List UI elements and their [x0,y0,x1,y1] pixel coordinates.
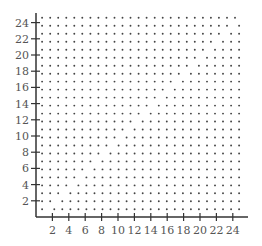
data-point [194,41,196,43]
data-point [138,73,140,75]
data-point [206,81,208,83]
data-point [158,145,160,147]
data-point [134,184,136,186]
y-tick-label: 18 [15,65,29,78]
data-point [238,168,240,170]
data-point [178,41,180,43]
data-point [122,49,124,51]
data-point [41,33,43,35]
data-point [238,49,240,51]
data-point [49,153,51,155]
data-point [41,192,43,194]
data-point [81,153,83,155]
data-point [226,25,228,27]
data-point [114,41,116,43]
data-point [97,145,99,147]
data-point [97,129,99,131]
data-point [150,145,152,147]
data-point [61,200,63,202]
data-point [49,176,51,178]
data-point [198,145,200,147]
data-point [122,105,124,107]
data-point [238,176,240,178]
data-point [218,17,220,19]
data-point [77,192,79,194]
data-point [97,81,99,83]
data-point [154,49,156,51]
data-point [162,25,164,27]
data-point [138,89,140,91]
data-point [89,121,91,123]
data-point [178,65,180,67]
data-point [89,25,91,27]
data-point [41,208,43,210]
data-point [214,81,216,83]
data-point [214,145,216,147]
data-point [214,73,216,75]
data-point [182,153,184,155]
data-point [41,184,43,186]
data-point [89,153,91,155]
data-point [94,176,96,178]
data-point [89,65,91,67]
data-point [122,73,124,75]
data-point [206,176,208,178]
data-point [238,129,240,131]
data-point [166,153,168,155]
data-point [105,49,107,51]
data-point [69,200,71,202]
data-point [73,121,75,123]
x-tick-label: 14 [144,224,158,237]
data-point [154,41,156,43]
data-point [57,113,59,115]
data-point [81,97,83,99]
data-point [162,49,164,51]
data-point [122,89,124,91]
data-points [41,17,240,210]
data-point [174,137,176,139]
data-point [57,176,59,178]
data-point [202,41,204,43]
data-point [142,145,144,147]
data-point [230,192,232,194]
data-point [134,137,136,139]
data-point [118,192,120,194]
data-point [73,176,75,178]
data-point [114,121,116,123]
data-point [49,65,51,67]
data-point [170,17,172,19]
data-point [85,184,87,186]
data-point [118,200,120,202]
data-point [230,41,232,43]
data-point [190,137,192,139]
data-point [97,153,99,155]
data-point [190,184,192,186]
data-point [114,33,116,35]
data-point [162,17,164,19]
data-point [190,81,192,83]
data-point [174,184,176,186]
data-point [190,160,192,162]
data-point [198,73,200,75]
y-tick-label: 12 [15,114,29,127]
data-point [234,17,236,19]
data-point [118,153,120,155]
data-point [206,168,208,170]
data-point [150,184,152,186]
data-point [230,105,232,107]
data-point [49,89,51,91]
data-point [214,113,216,115]
data-point [222,184,224,186]
data-point [81,168,83,170]
data-point [150,208,152,210]
data-point [110,192,112,194]
data-point [166,113,168,115]
data-point [57,65,59,67]
data-point [138,57,140,59]
data-point [118,160,120,162]
data-point [41,153,43,155]
data-point [49,184,51,186]
data-point [134,208,136,210]
data-point [222,49,224,51]
data-point [214,121,216,123]
